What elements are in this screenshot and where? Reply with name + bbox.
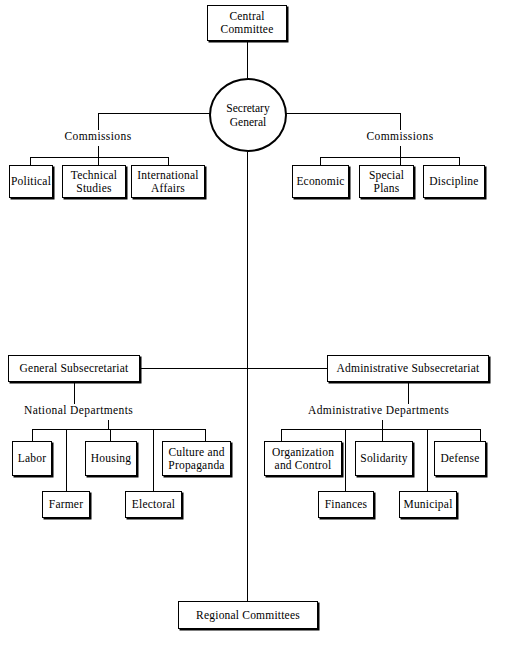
node-general-subsecretariat: General Subsecretariat [8, 355, 140, 382]
node-solidarity: Solidarity [355, 441, 413, 476]
solidarity-label: Solidarity [360, 452, 407, 465]
connector-housing-drop [110, 429, 111, 441]
organization-and-control-label-line1: Organization [272, 446, 334, 459]
node-regional-committees: Regional Committees [178, 601, 318, 629]
special-plans-label-line1: Special [369, 169, 404, 182]
connector-defense-drop [480, 429, 481, 441]
organization-and-control-label-line2: and Control [275, 459, 332, 472]
node-economic: Economic [292, 165, 349, 198]
label-national-departments: National Departments [24, 404, 124, 416]
node-electoral: Electoral [125, 491, 182, 518]
connector-national-departments-bar [32, 429, 205, 430]
node-international-affairs: International Affairs [131, 165, 205, 198]
connector-main-trunk [247, 152, 248, 601]
connector-special-plans-drop [400, 157, 401, 165]
central-committee-label-line2: Committee [221, 23, 274, 36]
connector-culture-drop [205, 429, 206, 441]
node-culture-and-propaganda: Culture and Propaganda [162, 441, 231, 476]
connector-political-drop [30, 157, 31, 165]
discipline-label: Discipline [429, 175, 478, 188]
defense-label: Defense [440, 452, 479, 465]
node-technical-studies: Technical Studies [62, 165, 126, 198]
connector-left-commissions-stem [98, 146, 99, 157]
municipal-label: Municipal [403, 498, 452, 511]
political-label: Political [11, 175, 51, 188]
node-administrative-subsecretariat: Administrative Subsecretariat [327, 355, 489, 382]
connector-admin-sub-drop [408, 382, 409, 404]
connector-organization-drop [281, 429, 282, 441]
connector-sg-left [98, 113, 211, 114]
label-administrative-departments: Administrative Departments [308, 404, 448, 416]
node-discipline: Discipline [423, 165, 485, 198]
housing-label: Housing [91, 452, 131, 465]
connector-electoral-drop [153, 429, 154, 491]
node-municipal: Municipal [399, 491, 457, 518]
node-finances: Finances [318, 491, 374, 518]
connector-right-commissions-bar [320, 157, 459, 158]
node-political: Political [9, 165, 53, 198]
general-subsecretariat-label: General Subsecretariat [20, 362, 129, 375]
node-organization-and-control: Organization and Control [264, 441, 342, 476]
connector-farmer-drop [66, 429, 67, 491]
administrative-subsecretariat-label: Administrative Subsecretariat [337, 362, 480, 375]
labor-label: Labor [18, 452, 46, 465]
connector-municipal-drop [427, 429, 428, 491]
connector-technical-studies-drop [98, 157, 99, 165]
secretary-general-label-line1: Secretary [226, 101, 269, 115]
connector-right-drop [400, 113, 401, 130]
node-housing: Housing [85, 441, 137, 476]
central-committee-label-line1: Central [229, 10, 264, 23]
finances-label: Finances [325, 498, 367, 511]
connector-solidarity-drop [382, 429, 383, 441]
special-plans-label-line2: Plans [374, 182, 400, 195]
connector-administrative-departments-bar [281, 429, 480, 430]
label-commissions-left: Commissions [58, 130, 138, 142]
node-secretary-general: Secretary General [209, 78, 287, 152]
node-defense: Defense [434, 441, 486, 476]
connector-right-commissions-stem [400, 146, 401, 157]
org-chart-diagram: Central Committee Secretary General Comm… [0, 0, 507, 645]
technical-studies-label-line2: Studies [76, 182, 111, 195]
technical-studies-label-line1: Technical [71, 169, 117, 182]
culture-and-propaganda-label-line2: Propaganda [168, 459, 224, 472]
node-farmer: Farmer [42, 491, 90, 518]
connector-national-departments-stem [108, 420, 109, 429]
connector-left-drop [98, 113, 99, 130]
secretary-general-label-line2: General [230, 115, 266, 129]
electoral-label: Electoral [132, 498, 175, 511]
connector-cc-to-sg [247, 41, 248, 78]
connector-left-commissions-bar [30, 157, 168, 158]
international-affairs-label-line1: International [137, 169, 198, 182]
connector-sg-right [286, 113, 400, 114]
connector-general-sub-drop [74, 382, 75, 404]
label-commissions-right: Commissions [360, 130, 440, 142]
farmer-label: Farmer [49, 498, 83, 511]
connector-labor-drop [32, 429, 33, 441]
connector-discipline-drop [459, 157, 460, 165]
connector-international-affairs-drop [168, 157, 169, 165]
node-special-plans: Special Plans [359, 165, 414, 198]
regional-committees-label: Regional Committees [196, 609, 300, 622]
international-affairs-label-line2: Affairs [151, 182, 185, 195]
connector-economic-drop [320, 157, 321, 165]
node-labor: Labor [12, 441, 52, 476]
culture-and-propaganda-label-line1: Culture and [168, 446, 224, 459]
economic-label: Economic [296, 175, 344, 188]
node-central-committee: Central Committee [207, 5, 287, 41]
connector-finances-drop [345, 429, 346, 491]
connector-administrative-departments-stem [382, 420, 383, 429]
